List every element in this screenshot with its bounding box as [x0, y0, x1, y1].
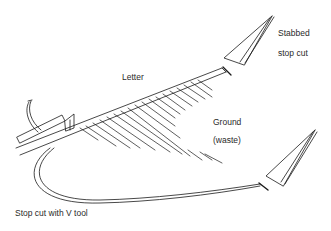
- label-stabbed-line2: stop cut: [278, 48, 308, 59]
- v-tool-stop-cut-curve: [34, 148, 268, 203]
- stabbed-chisel-top: [224, 16, 274, 65]
- label-ground-line2: (waste): [213, 135, 241, 146]
- label-letter: Letter: [122, 72, 144, 83]
- label-vtool: Stop cut with V tool: [15, 208, 88, 219]
- ground-hatching: [80, 80, 222, 163]
- diagram-canvas: Letter Stabbed stop cut Ground (waste) S…: [0, 0, 331, 231]
- label-ground-line1: Ground: [213, 117, 241, 128]
- label-stabbed-line1: Stabbed: [278, 28, 310, 39]
- chisel-bottom: [266, 130, 317, 186]
